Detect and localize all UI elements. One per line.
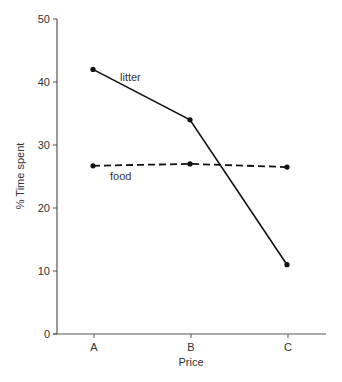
y-axis-title: % Time spent bbox=[14, 143, 26, 210]
data-point-food bbox=[284, 164, 289, 169]
data-point-litter bbox=[284, 262, 289, 267]
series-line-litter bbox=[93, 69, 287, 264]
y-tick-label: 30 bbox=[38, 139, 50, 151]
labels: Price% Time spentlitterfood bbox=[14, 71, 204, 368]
y-tick-label: 40 bbox=[38, 76, 50, 88]
x-tick-label: A bbox=[90, 341, 98, 353]
series-label-food: food bbox=[110, 170, 131, 182]
data-point-litter bbox=[187, 117, 192, 122]
line-chart: 01020304050ABC Price% Time spentlitterfo… bbox=[0, 0, 342, 382]
x-axis-title: Price bbox=[178, 356, 203, 368]
y-tick-label: 50 bbox=[38, 13, 50, 25]
data-point-food bbox=[187, 161, 192, 166]
x-tick-label: C bbox=[284, 341, 292, 353]
y-tick-label: 20 bbox=[38, 202, 50, 214]
axes: 01020304050ABC bbox=[38, 13, 326, 353]
series-group bbox=[90, 67, 289, 268]
data-point-food bbox=[90, 163, 95, 168]
y-tick-label: 10 bbox=[38, 265, 50, 277]
x-tick-label: B bbox=[187, 341, 194, 353]
series-label-litter: litter bbox=[120, 71, 141, 83]
data-point-litter bbox=[90, 67, 95, 72]
y-tick-label: 0 bbox=[44, 328, 50, 340]
